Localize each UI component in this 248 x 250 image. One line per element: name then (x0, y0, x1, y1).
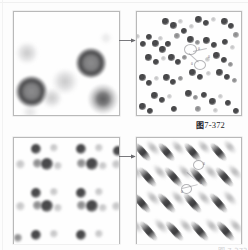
scan-edge-left (2, 0, 3, 250)
diffraction-spot (189, 69, 196, 76)
diffraction-spot (52, 69, 78, 94)
panel-bottom-right-high-magnification: 0 0 0 (136, 137, 242, 244)
diffraction-spot (195, 40, 200, 45)
lattice-spot (41, 200, 53, 212)
panel-top-right-content: 0 0 0 (137, 12, 241, 115)
diffraction-spot (211, 17, 216, 22)
arrow-bottom-magnify (119, 152, 136, 161)
diffraction-spot (22, 104, 38, 115)
diffraction-spot (195, 106, 201, 112)
diffraction-spot (218, 94, 223, 99)
diffraction-spot (153, 59, 159, 65)
diffraction-spot (211, 42, 217, 48)
diffraction-spot (222, 39, 228, 45)
diffraction-spot (233, 108, 239, 114)
diffraction-streak (137, 217, 145, 236)
diffraction-spot (187, 36, 194, 43)
lattice-spot (31, 188, 41, 198)
figure-page: 0 0 0 (0, 0, 248, 250)
lattice-spot (95, 144, 103, 152)
diffraction-streak (214, 219, 237, 243)
diffraction-spot (167, 94, 172, 99)
diffraction-streak (156, 141, 177, 164)
diffraction-spot (16, 76, 47, 107)
lattice-spot (41, 158, 53, 170)
diffraction-spot (213, 108, 218, 113)
diffraction-streak (137, 163, 145, 182)
diffraction-spot (159, 97, 165, 103)
diffraction-spot (139, 103, 146, 110)
diffraction-spot (100, 32, 112, 44)
diffraction-spot (233, 32, 239, 38)
diffraction-spot (146, 34, 152, 40)
diffraction-spot (168, 54, 175, 61)
diffraction-spot (88, 84, 118, 114)
diffraction-streak (195, 189, 213, 208)
diffraction-streak (137, 219, 160, 243)
diffraction-spot (16, 42, 38, 64)
panel-bottom-left-low-magnification (13, 137, 120, 244)
diffraction-spot (225, 100, 231, 106)
figure-caption-prefix: 图 (196, 121, 204, 130)
diffraction-spot (203, 37, 210, 44)
diffraction-spot (203, 20, 209, 26)
diffraction-streak (169, 138, 186, 156)
figure-caption: 图7-372 (196, 119, 225, 130)
diffraction-spot (221, 18, 228, 25)
diffraction-spot (221, 57, 227, 63)
diffraction-spot (178, 76, 183, 81)
lattice-spot (16, 160, 25, 169)
diffraction-spot (137, 34, 140, 39)
diffraction-spot (185, 90, 192, 97)
diffraction-spot (182, 55, 187, 60)
diffraction-spot (159, 46, 166, 53)
diffraction-streak (177, 217, 195, 236)
diffraction-spot (170, 79, 176, 85)
diffraction-streak (144, 139, 162, 158)
annotation-label: 0 (198, 47, 200, 51)
annotation-leader-line (189, 53, 199, 62)
diffraction-streak (188, 219, 211, 243)
diffraction-streak (155, 191, 178, 215)
diffraction-spot (175, 59, 181, 65)
diffraction-streak (221, 189, 239, 208)
diffraction-streak (203, 217, 221, 236)
diffraction-streak (207, 191, 230, 215)
diffraction-spot (201, 92, 207, 98)
lattice-spot (33, 201, 42, 210)
diffraction-spot (152, 40, 159, 47)
diffraction-spot (189, 24, 194, 29)
lattice-spot (16, 202, 25, 211)
lattice-spot (95, 188, 103, 196)
diffraction-streak (222, 138, 239, 155)
diffraction-spot (162, 18, 169, 25)
diffraction-spot (158, 36, 163, 41)
panel-top-left-low-magnification (13, 11, 120, 116)
diffraction-spot (228, 23, 234, 29)
diffraction-spot (232, 78, 237, 83)
cropped-bottom-caption: 图 7-373 (218, 245, 248, 250)
diffraction-spot (145, 54, 152, 61)
diffraction-spot (224, 74, 230, 80)
lattice-spot (95, 230, 103, 238)
diffraction-streak (137, 141, 153, 164)
diffraction-spot (139, 74, 146, 81)
lattice-spot (54, 204, 62, 212)
lattice-spot (86, 200, 98, 212)
annotation-label: 0 (181, 190, 183, 194)
annotation-label: 0 (208, 55, 210, 59)
lattice-spot (33, 159, 42, 168)
lattice-spot (76, 144, 86, 154)
diffraction-spot (170, 22, 177, 29)
annotation-label: 0 (200, 181, 202, 185)
diffraction-streak (226, 163, 241, 182)
diffraction-spot (230, 45, 235, 50)
diffraction-spot (216, 69, 223, 76)
diffraction-spot (147, 108, 153, 114)
lattice-spot (112, 202, 119, 211)
diffraction-streak (137, 191, 153, 215)
diffraction-spot (181, 28, 187, 34)
diffraction-streak (137, 165, 159, 189)
diffraction-spot (76, 48, 106, 78)
panel-top-right-high-magnification: 0 0 0 (136, 11, 242, 116)
